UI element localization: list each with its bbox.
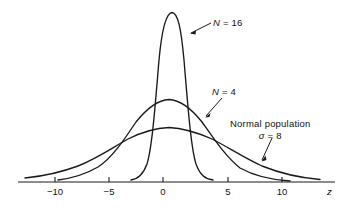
x-tick-label-5: 5 (215, 186, 241, 197)
annotation-population-sigma-value: = 8 (268, 130, 282, 141)
leader-line-population (262, 138, 272, 160)
x-tick-label-0: 0 (150, 186, 176, 197)
x-tick-label-minus-5: −5 (96, 186, 122, 197)
annotation-n-4-var: N (212, 86, 219, 97)
annotation-n-16-var: N (213, 17, 220, 28)
annotation-n-16-value: = 16 (223, 17, 243, 28)
leader-line-n-4 (206, 98, 222, 116)
annotation-n-4: N = 4 (212, 86, 236, 97)
annotation-n-16: N = 16 (213, 17, 242, 28)
annotation-population-sigma-var: σ (259, 130, 265, 141)
annotation-normal-population: Normal population σ = 8 (230, 118, 311, 141)
figure-sampling-distributions: N = 16 N = 4 Normal population σ = 8 −10… (0, 0, 345, 215)
annotation-population-title: Normal population (230, 118, 311, 129)
distribution-plot (0, 0, 345, 215)
x-tick-label-10: 10 (269, 186, 295, 197)
annotation-population-sigma: σ = 8 (230, 130, 311, 141)
annotation-n-4-value: = 4 (222, 86, 236, 97)
x-tick-label-minus-10: −10 (42, 186, 68, 197)
curve-n-16 (131, 13, 213, 181)
x-axis-label: z (327, 186, 332, 197)
